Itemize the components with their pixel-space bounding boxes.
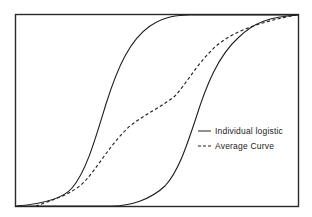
logistic-curves-chart: Individual logistic Average Curve: [0, 0, 312, 217]
average-curve: [36, 15, 296, 206]
individual-logistic-right-curve: [15, 15, 298, 206]
individual-logistic-left-curve: [17, 15, 298, 206]
legend-individual-label: Individual logistic: [215, 126, 284, 136]
legend: Individual logistic Average Curve: [198, 126, 284, 151]
plot-frame: [16, 15, 299, 207]
legend-average-label: Average Curve: [215, 141, 274, 151]
